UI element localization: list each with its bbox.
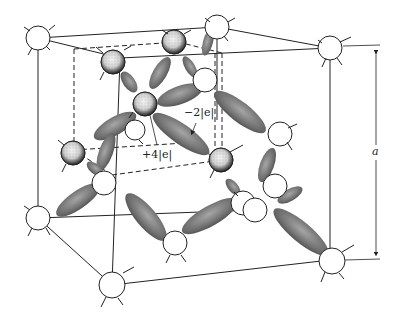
stippled-atom <box>209 148 233 172</box>
open-atom <box>243 198 267 222</box>
stippled-atom <box>162 30 186 54</box>
stippled-atom <box>61 141 85 165</box>
open-atom <box>263 174 287 198</box>
open-atom <box>99 267 134 307</box>
open-atom <box>163 231 187 263</box>
open-atom <box>193 68 217 92</box>
covalent-bonds <box>52 27 335 262</box>
diamond-lattice-diagram <box>0 0 400 323</box>
open-atom <box>125 120 145 144</box>
open-atom <box>24 206 50 236</box>
lattice-constant-label: a <box>372 145 379 158</box>
bond-charge-label: −2|e| <box>184 106 214 119</box>
open-atom <box>268 122 297 150</box>
open-atom <box>318 36 351 67</box>
open-atom <box>92 171 116 195</box>
stippled-atom <box>101 50 125 74</box>
stippled-atom <box>133 92 157 116</box>
core-charge-label: +4|e| <box>142 148 172 161</box>
open-atom <box>319 245 354 282</box>
open-atom <box>24 25 55 55</box>
